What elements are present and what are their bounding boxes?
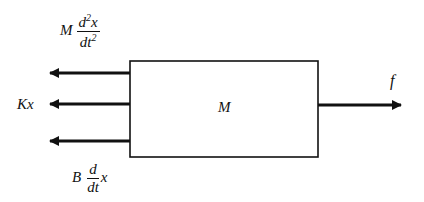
damping-force-label: Bddtx — [72, 162, 108, 195]
spring-force-label: Kx — [17, 97, 34, 112]
mass-label: M — [218, 100, 231, 115]
second-derivative-fraction: d2xdt2 — [77, 13, 100, 50]
damping-var: x — [101, 169, 108, 185]
inertial-force-label: Md2xdt2 — [60, 13, 100, 50]
applied-force-label: f — [390, 73, 394, 89]
first-derivative-fraction: ddt — [85, 162, 101, 195]
damping-coef: B — [72, 169, 81, 185]
inertial-coef: M — [60, 22, 73, 38]
